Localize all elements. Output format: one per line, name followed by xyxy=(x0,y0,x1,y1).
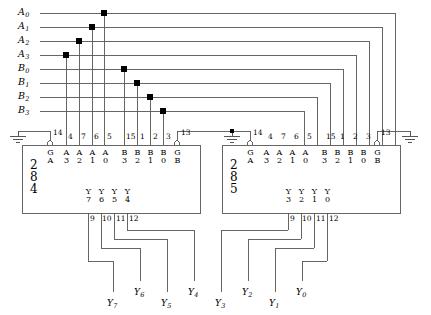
ic-285-label-b1: B1 xyxy=(344,149,357,165)
ic-285-label-gb: GB xyxy=(371,149,384,165)
ic-284-name: 2 8 4 xyxy=(30,159,38,196)
input-label-a3: A3 xyxy=(18,49,29,59)
output-route-y0 xyxy=(302,224,327,281)
ic-284-label-b3: B3 xyxy=(118,149,131,165)
ic-284-label-b2: B2 xyxy=(131,149,144,165)
ic-285-pin-num-gb: 13 xyxy=(381,129,391,137)
output-label-y2: Y2 xyxy=(242,288,252,297)
ic-285-outpin-num-12: 12 xyxy=(329,215,339,223)
ic-285-label-a2: A2 xyxy=(273,149,286,165)
input-label-a2: A2 xyxy=(18,35,29,45)
ic-285-name: 2 8 5 xyxy=(230,159,238,196)
ic-285-label-a3: A3 xyxy=(260,149,273,165)
ic-285-outpin-num-9: 9 xyxy=(290,215,295,223)
ic-284-label-y6: Y6 xyxy=(95,188,108,204)
ic-285-label-y1: Y1 xyxy=(308,188,321,204)
ic-284-pin-num-a3: 4 xyxy=(68,133,73,141)
ic-284-label-ga: GA xyxy=(44,149,57,165)
ic-285-pin-num-a0: 5 xyxy=(307,133,312,141)
output-label-y1: Y1 xyxy=(269,299,279,308)
output-route-y4 xyxy=(127,224,194,281)
output-route-y1 xyxy=(275,224,314,292)
output-label-y0: Y0 xyxy=(296,288,306,297)
ic-284-outpin-num-12: 12 xyxy=(129,215,139,223)
ic-284-label-y7: Y7 xyxy=(82,188,95,204)
circuit-diagram: A0 A1 A2 A3 B0 B1 B2 B3 2 8 4 14 4 7 6 5… xyxy=(0,0,431,315)
ic-285-label-b2: B2 xyxy=(331,149,344,165)
output-route-y3 xyxy=(221,224,288,292)
ic-284-pin-num-ga: 14 xyxy=(53,129,63,137)
ic-285-outpin-num-10: 10 xyxy=(302,215,312,223)
ic-284-outpin-num-10: 10 xyxy=(102,215,112,223)
ic-284-label-a1: A1 xyxy=(86,149,99,165)
ic-284-label-b1: B1 xyxy=(144,149,157,165)
ic-285-label-y2: Y2 xyxy=(295,188,308,204)
output-label-y4: Y4 xyxy=(188,288,198,297)
output-label-y3: Y3 xyxy=(215,299,225,308)
output-label-y5: Y5 xyxy=(161,299,171,308)
ic-284-pin-num-gb: 13 xyxy=(181,129,191,137)
ic-284-pin-num-b1: 2 xyxy=(153,133,158,141)
ic-285-outpin-num-11: 11 xyxy=(316,215,326,223)
ic-284-label-gb: GB xyxy=(171,149,184,165)
ic-284-label-y4: Y4 xyxy=(121,188,134,204)
ic-284-pin-num-b2: 1 xyxy=(140,133,145,141)
input-label-b2: B2 xyxy=(18,91,29,101)
ic-285-label-a1: A1 xyxy=(286,149,299,165)
ic-285-label-a0: A0 xyxy=(299,149,312,165)
ic-285-pin-num-b2: 1 xyxy=(340,133,345,141)
ic-285-label-b0: B0 xyxy=(357,149,370,165)
ic-284-label-y5: Y5 xyxy=(108,188,121,204)
right-ic-input-drops xyxy=(304,13,395,145)
ic-284-pin-num-a2: 7 xyxy=(81,133,86,141)
ic-284-pin-num-b0: 3 xyxy=(166,133,171,141)
input-label-a1: A1 xyxy=(18,21,29,31)
input-label-b3: B3 xyxy=(18,105,29,115)
output-route-y6 xyxy=(101,224,140,281)
ic-285-pin-num-ga: 14 xyxy=(253,129,263,137)
ic-284-pin-num-a0: 5 xyxy=(107,133,112,141)
ic-285-pin-num-b3: 15 xyxy=(326,133,336,141)
ic-285-pin-num-b0: 3 xyxy=(366,133,371,141)
ic-284-label-a0: A0 xyxy=(99,149,112,165)
ic-285-pin-num-a1: 6 xyxy=(294,133,299,141)
ic-285-label-y3: Y3 xyxy=(282,188,295,204)
output-route-y5 xyxy=(114,224,167,292)
ic-284-pin-num-b3: 15 xyxy=(126,133,136,141)
input-label-b1: B1 xyxy=(18,77,29,87)
ground-junction-dot xyxy=(230,129,235,134)
ic-285-pin-num-b1: 2 xyxy=(353,133,358,141)
ic-285-pin-num-a2: 7 xyxy=(281,133,286,141)
input-label-a0: A0 xyxy=(18,7,29,17)
input-label-b0: B0 xyxy=(18,63,29,73)
ic-284-label-a3: A3 xyxy=(60,149,73,165)
ic-284-outpin-num-9: 9 xyxy=(90,215,95,223)
ic-284-label-a2: A2 xyxy=(73,149,86,165)
ic-285-label-y0: Y0 xyxy=(321,188,334,204)
ic-284-pin-num-a1: 6 xyxy=(94,133,99,141)
ic-284-label-b0: B0 xyxy=(157,149,170,165)
output-route-y2 xyxy=(248,224,301,281)
ic-285-label-b3: B3 xyxy=(318,149,331,165)
ic-285-label-ga: GA xyxy=(244,149,257,165)
output-route-y7 xyxy=(88,224,113,292)
left-ic-input-drops xyxy=(66,13,163,145)
ic-284-outpin-num-11: 11 xyxy=(116,215,126,223)
ic-285-pin-num-a3: 4 xyxy=(268,133,273,141)
output-label-y7: Y7 xyxy=(107,299,117,308)
output-label-y6: Y6 xyxy=(134,288,144,297)
